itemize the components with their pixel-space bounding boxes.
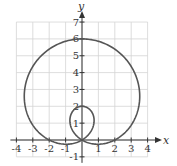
x-tick-label: 4 [144, 143, 150, 154]
x-axis-label: x [163, 134, 170, 147]
y-axis-label: y [77, 0, 85, 13]
x-axis-arrow-icon [155, 137, 162, 143]
x-tick-label: 2 [112, 143, 118, 154]
polar-chart: -4-3-2-11234-11234567 x y [0, 0, 177, 166]
y-tick-label: 3 [73, 84, 79, 95]
y-tick-label: 5 [73, 50, 79, 61]
x-tick-label: -2 [44, 143, 54, 154]
x-tick-label: -3 [28, 143, 38, 154]
y-tick-label: 4 [73, 67, 79, 78]
y-tick-label: -1 [69, 151, 79, 162]
x-tick-label: -4 [12, 143, 22, 154]
y-tick-label: 7 [73, 17, 79, 28]
x-tick-label: 3 [128, 143, 134, 154]
y-tick-label: 1 [73, 118, 79, 129]
